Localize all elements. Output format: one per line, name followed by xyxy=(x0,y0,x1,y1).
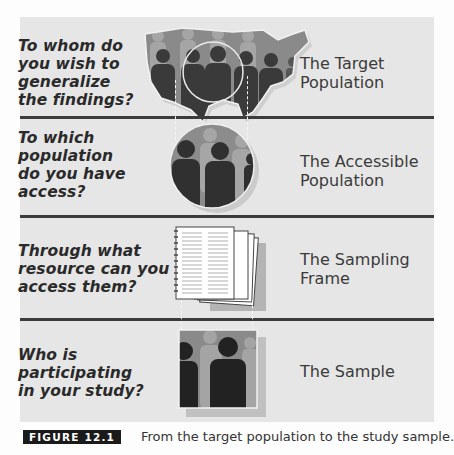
label-line: The Sample xyxy=(300,362,395,381)
question-target: To whom do you wish to generalize the fi… xyxy=(18,37,134,109)
question-accessible: To which population do you have access? xyxy=(18,129,126,201)
label-line: Population xyxy=(300,171,419,190)
connector-line xyxy=(252,300,253,330)
question-line: population xyxy=(18,147,126,165)
label-sample: The Sample xyxy=(300,362,395,381)
question-line: the findings? xyxy=(18,91,134,109)
divider xyxy=(20,215,434,218)
label-line: The Accessible xyxy=(300,152,419,171)
label-sampling-frame: The Sampling Frame xyxy=(300,250,410,288)
divider xyxy=(20,318,434,321)
question-line: generalize xyxy=(18,73,134,91)
label-line: Population xyxy=(300,73,384,92)
question-line: Who is xyxy=(18,346,144,364)
divider xyxy=(20,116,434,119)
question-line: access? xyxy=(18,183,126,201)
figure-caption-text: From the target population to the study … xyxy=(141,429,454,444)
question-line: in your study? xyxy=(18,382,144,400)
question-line: To which xyxy=(18,129,126,147)
connector-line xyxy=(181,300,182,330)
question-line: access them? xyxy=(18,278,169,296)
label-accessible: The Accessible Population xyxy=(300,152,419,190)
label-line: Frame xyxy=(300,269,410,288)
us-map-crowd-icon xyxy=(143,22,313,122)
label-target: The Target Population xyxy=(300,54,384,92)
question-line: participating xyxy=(18,364,144,382)
figure-number-badge: FIGURE 12.1 xyxy=(23,430,121,444)
question-sample: Who is participating in your study? xyxy=(18,346,144,400)
label-line: The Target xyxy=(300,54,384,73)
question-line: To whom do xyxy=(18,37,134,55)
label-line: The Sampling xyxy=(300,250,410,269)
sample-photo-icon xyxy=(178,329,270,419)
question-line: Through what xyxy=(18,242,169,260)
document-stack-icon xyxy=(172,221,272,313)
circle-crowd-icon xyxy=(170,123,264,213)
question-line: you wish to xyxy=(18,55,134,73)
question-line: do you have xyxy=(18,165,126,183)
question-sampling-frame: Through what resource can you access the… xyxy=(18,242,169,296)
question-line: resource can you xyxy=(18,260,169,278)
